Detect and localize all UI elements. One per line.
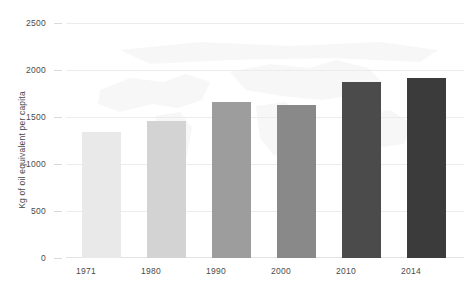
gridline-2500 bbox=[66, 23, 464, 24]
bar-2000[interactable] bbox=[277, 105, 316, 258]
y-tick-dash-500 bbox=[54, 211, 62, 212]
bar-1990[interactable] bbox=[212, 102, 251, 258]
y-tick-label-1000: 1000 bbox=[0, 159, 46, 169]
bar-2014[interactable] bbox=[407, 78, 446, 258]
bar-1980[interactable] bbox=[147, 121, 186, 258]
plot-area bbox=[66, 23, 464, 258]
y-tick-dash-0 bbox=[54, 258, 62, 259]
gridline-1500 bbox=[66, 117, 464, 118]
bar-1971[interactable] bbox=[82, 132, 121, 258]
x-tick-label-2000: 2000 bbox=[257, 266, 305, 276]
x-tick-label-2010: 2010 bbox=[322, 266, 370, 276]
bar-2010[interactable] bbox=[342, 82, 381, 258]
y-tick-label-0: 0 bbox=[0, 253, 46, 263]
y-tick-label-500: 500 bbox=[0, 206, 46, 216]
x-tick-label-1980: 1980 bbox=[127, 266, 175, 276]
x-axis-baseline bbox=[66, 257, 464, 258]
y-tick-dash-2000 bbox=[54, 70, 62, 71]
y-tick-label-1500: 1500 bbox=[0, 112, 46, 122]
energy-use-bar-chart: Kg of oil equivalent per capita 2500 200… bbox=[0, 0, 471, 300]
x-tick-label-1971: 1971 bbox=[62, 266, 110, 276]
gridline-2000 bbox=[66, 70, 464, 71]
y-tick-label-2500: 2500 bbox=[0, 18, 46, 28]
y-tick-dash-2500 bbox=[54, 23, 62, 24]
y-axis-title: Kg of oil equivalent per capita bbox=[17, 91, 27, 209]
y-tick-dash-1500 bbox=[54, 117, 62, 118]
x-tick-label-2014: 2014 bbox=[387, 266, 435, 276]
y-tick-dash-1000 bbox=[54, 164, 62, 165]
gridline-1000 bbox=[66, 164, 464, 165]
gridline-500 bbox=[66, 211, 464, 212]
y-tick-label-2000: 2000 bbox=[0, 65, 46, 75]
x-tick-label-1990: 1990 bbox=[192, 266, 240, 276]
